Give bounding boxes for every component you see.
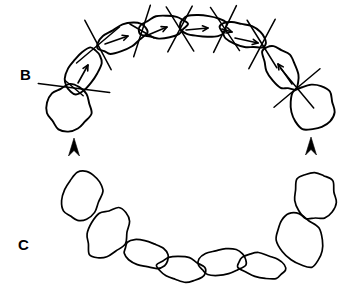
panel-c-label: C	[18, 236, 29, 253]
panel-b-label: B	[20, 66, 31, 83]
figure-background	[0, 0, 357, 295]
figure-drawing: B C	[0, 0, 357, 295]
figure-container: B C	[0, 0, 357, 295]
